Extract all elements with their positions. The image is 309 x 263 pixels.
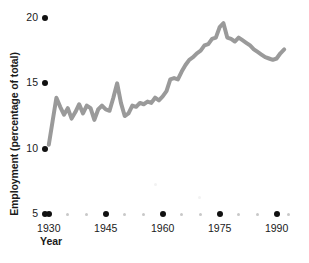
artifact-speck <box>198 196 201 199</box>
employment-line-chart: Employment (percentage of total) 5101520… <box>0 0 309 263</box>
plot-area <box>0 0 309 263</box>
data-series-line <box>49 23 284 145</box>
artifact-speck <box>154 183 157 186</box>
x-axis-title: Year <box>40 235 62 247</box>
